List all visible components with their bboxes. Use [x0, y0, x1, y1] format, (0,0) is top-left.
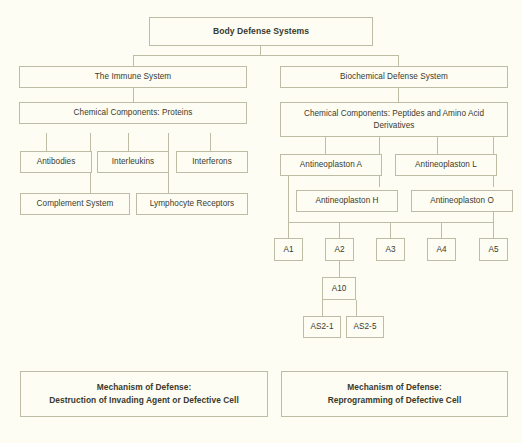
- node-antineoplaston-o[interactable]: Antineoplaston O: [411, 190, 513, 212]
- connector-bar-to-a3: [390, 222, 391, 238]
- node-a5[interactable]: A5: [479, 238, 508, 261]
- node-antibodies[interactable]: Antibodies: [20, 151, 92, 173]
- connector-bar-to-a1: [288, 222, 289, 238]
- connector-proteins-to-interleukins: [128, 133, 129, 151]
- node-antineoplaston-h[interactable]: Antineoplaston H: [296, 190, 398, 212]
- connector-a10-to-as2-5: [356, 300, 357, 316]
- node-lymphocyte-receptors[interactable]: Lymphocyte Receptors: [136, 193, 248, 215]
- connector-bar-to-a2: [339, 222, 340, 238]
- connector-antineoplaston-a-down: [288, 176, 289, 222]
- node-antineoplaston-a[interactable]: Antineoplaston A: [280, 154, 382, 176]
- connector-root-stem: [260, 46, 261, 55]
- node-a4[interactable]: A4: [427, 238, 456, 261]
- node-complement-system[interactable]: Complement System: [20, 193, 130, 215]
- connector-root-split: [133, 55, 399, 56]
- connector-immune-to-proteins: [133, 88, 134, 102]
- connector-proteins-to-antibodies: [46, 133, 47, 151]
- node-a10[interactable]: A10: [322, 277, 356, 300]
- node-the-immune-system[interactable]: The Immune System: [19, 66, 247, 88]
- connector-peptides-to-antineoplaston-l: [437, 137, 438, 154]
- node-mechanism-left[interactable]: Mechanism of Defense: Destruction of Inv…: [20, 371, 268, 417]
- connector-bar-to-a4: [441, 222, 442, 238]
- node-a2[interactable]: A2: [325, 238, 354, 261]
- node-mechanism-right[interactable]: Mechanism of Defense: Reprogramming of D…: [281, 371, 508, 417]
- node-as2-1[interactable]: AS2-1: [303, 316, 341, 338]
- node-interferons[interactable]: Interferons: [176, 151, 248, 173]
- connector-peptides-to-antineoplaston-a: [325, 137, 326, 154]
- node-chemical-components-proteins[interactable]: Chemical Components: Proteins: [19, 102, 247, 124]
- mechanism-right-line1: Mechanism of Defense:: [347, 381, 442, 394]
- connector-a-row-bar: [288, 222, 494, 223]
- node-interleukins[interactable]: Interleukins: [97, 151, 169, 173]
- mechanism-right-line2: Reprogramming of Defective Cell: [328, 394, 462, 407]
- node-biochemical-defense-system[interactable]: Biochemical Defense System: [280, 66, 508, 88]
- node-chemical-components-peptides[interactable]: Chemical Components: Peptides and Amino …: [280, 102, 508, 137]
- connector-a10-to-as2-1: [322, 300, 323, 316]
- node-as2-5[interactable]: AS2-5: [346, 316, 384, 338]
- connector-to-immune: [133, 55, 134, 66]
- mechanism-left-line1: Mechanism of Defense:: [97, 381, 192, 394]
- connector-proteins-to-interferons: [210, 133, 211, 151]
- connector-to-biochemical: [398, 55, 399, 66]
- connector-a2-to-a10: [339, 261, 340, 277]
- node-a3[interactable]: A3: [376, 238, 405, 261]
- connector-bar-to-a5: [493, 222, 494, 238]
- diagram-canvas: Body Defense Systems The Immune System B…: [0, 0, 522, 443]
- mechanism-left-line2: Destruction of Invading Agent or Defecti…: [49, 394, 239, 407]
- connector-antineoplaston-o-down: [493, 212, 494, 222]
- node-body-defense-systems[interactable]: Body Defense Systems: [149, 17, 373, 46]
- connector-biochemical-to-peptides: [398, 88, 399, 102]
- node-antineoplaston-l[interactable]: Antineoplaston L: [395, 154, 497, 176]
- node-a1[interactable]: A1: [274, 238, 303, 261]
